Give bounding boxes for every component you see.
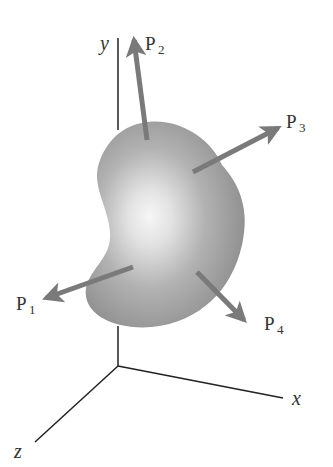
force-label-p4: P 4 — [264, 313, 284, 337]
force-label-p3: P 3 — [286, 111, 306, 135]
force-label-p2: P 2 — [145, 33, 165, 57]
svg-text:P: P — [264, 313, 275, 334]
svg-text:1: 1 — [29, 302, 36, 317]
svg-text:3: 3 — [299, 120, 306, 135]
force-label-p1: P 1 — [16, 293, 36, 317]
svg-text:P: P — [16, 293, 27, 314]
svg-text:2: 2 — [158, 42, 165, 57]
free-body-diagram: y x z P 2 P 3 P 1 P 4 — [0, 0, 333, 467]
svg-text:P: P — [286, 111, 297, 132]
svg-text:4: 4 — [277, 322, 284, 337]
x-axis-label: x — [291, 387, 301, 409]
z-axis — [35, 366, 118, 442]
x-axis — [118, 366, 283, 398]
z-axis-label: z — [13, 440, 22, 462]
y-axis-label: y — [98, 32, 109, 55]
svg-text:P: P — [145, 33, 156, 54]
